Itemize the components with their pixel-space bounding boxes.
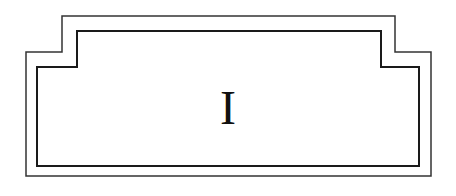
frame-label: I [0,80,456,136]
